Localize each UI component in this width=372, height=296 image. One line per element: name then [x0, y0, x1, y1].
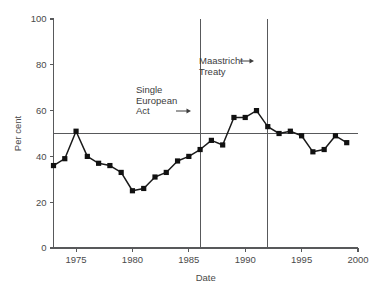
data-point-marker	[107, 163, 112, 168]
data-point-marker	[231, 115, 236, 120]
data-point-marker	[265, 124, 270, 129]
data-point-marker	[322, 147, 327, 152]
y-axis-tick-label: 0	[41, 242, 46, 253]
data-point-marker	[276, 131, 281, 136]
data-point-marker	[152, 174, 157, 179]
y-axis-tick-label: 40	[36, 151, 47, 162]
y-axis-tick-label: 20	[36, 197, 47, 208]
data-point-marker	[164, 170, 169, 175]
single-european-act-label-line: Single	[136, 84, 162, 95]
single-european-act-label-line: Act	[136, 105, 150, 116]
maastricht-treaty-label-line: Maastricht	[199, 55, 243, 66]
data-point-marker	[299, 133, 304, 138]
data-point-marker	[243, 115, 248, 120]
data-point-marker	[175, 158, 180, 163]
data-point-marker	[130, 188, 135, 193]
data-point-marker	[96, 161, 101, 166]
x-axis-tick-label: 1975	[65, 254, 86, 265]
x-axis-tick-label: 1995	[291, 254, 312, 265]
single-european-act-arrow-head	[187, 108, 192, 113]
x-axis-tick-label: 1980	[122, 254, 143, 265]
y-axis-tick-label: 60	[36, 105, 47, 116]
data-point-marker	[62, 156, 67, 161]
y-axis-tick-label: 80	[36, 59, 47, 70]
data-point-marker	[51, 163, 56, 168]
data-point-marker	[73, 129, 78, 134]
data-point-marker	[209, 138, 214, 143]
maastricht-treaty-arrow-head	[250, 58, 255, 63]
data-point-marker	[333, 133, 338, 138]
data-point-marker	[119, 170, 124, 175]
data-point-marker	[254, 108, 259, 113]
data-point-marker	[198, 147, 203, 152]
data-point-marker	[141, 186, 146, 191]
data-point-marker	[220, 142, 225, 147]
single-european-act-label-line: European	[136, 95, 177, 106]
data-point-marker	[288, 129, 293, 134]
data-point-marker	[85, 154, 90, 159]
maastricht-treaty-label-line: Treaty	[199, 66, 226, 77]
x-axis-title: Date	[196, 272, 216, 283]
data-point-marker	[186, 154, 191, 159]
x-axis-tick-label: 1985	[178, 254, 199, 265]
data-point-marker	[310, 149, 315, 154]
line-chart-canvas: 020406080100197519801985199019952000Date…	[0, 0, 372, 296]
x-axis-tick-label: 1990	[235, 254, 256, 265]
x-axis-tick-label: 2000	[347, 254, 368, 265]
data-point-marker	[344, 140, 349, 145]
y-axis-tick-label: 100	[31, 13, 47, 24]
y-axis-title: Per cent	[12, 115, 23, 151]
chart-figure: 020406080100197519801985199019952000Date…	[0, 0, 372, 296]
